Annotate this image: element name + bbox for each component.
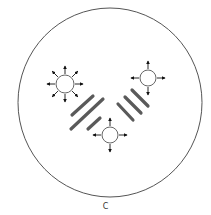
well-circle-icon — [102, 127, 118, 143]
band-right-2 — [125, 97, 141, 113]
diffusion-diagram — [0, 0, 211, 215]
well-circle-icon — [140, 70, 156, 86]
arrow-icon — [72, 71, 78, 77]
source-bottom — [93, 118, 127, 152]
arrow-icon — [72, 91, 78, 97]
band-left-3 — [88, 118, 100, 129]
arrow-icon — [52, 91, 58, 97]
arrow-icon — [52, 71, 58, 77]
precipitin-bands — [71, 90, 148, 129]
source-top-right — [131, 61, 165, 95]
petri-dish-outline — [18, 8, 202, 197]
band-right-1 — [118, 104, 133, 120]
band-right-3 — [132, 90, 148, 106]
well-circle-icon — [56, 75, 74, 93]
source-top-left — [47, 66, 83, 102]
figure-caption: C — [0, 202, 211, 212]
